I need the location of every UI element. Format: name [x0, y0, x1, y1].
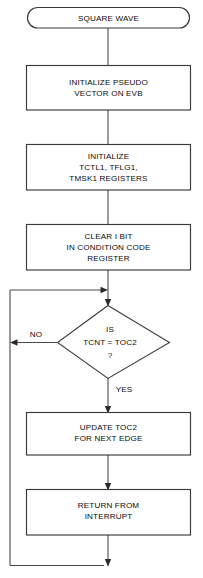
edge-label-yes: YES: [116, 385, 133, 394]
node-init-registers-label-line-2: TCTL1, TFLG1,: [79, 163, 137, 172]
node-start-label-line-1: SQUARE WAVE: [78, 14, 139, 23]
edge-label-no: NO: [30, 330, 42, 339]
node-return-from-interrupt-label-line-1: RETURN FROM: [78, 501, 140, 510]
connector-clear-i-bit-to-decision: [105, 270, 111, 307]
node-init-pseudo-vector-label-line-2: VECTOR ON EVB: [74, 89, 142, 98]
connector-decision-yes-to-update-toc2: [105, 378, 111, 414]
node-clear-i-bit-label-line-3: REGISTER: [87, 254, 130, 263]
node-clear-i-bit-label-line-1: CLEAR I BIT: [85, 232, 133, 241]
node-init-registers-label-line-1: INITIALIZE: [88, 152, 130, 161]
connector-return-to-loop-back: [105, 535, 111, 567]
flowchart-canvas: SQUARE WAVE INITIALIZE PSEUDO VECTOR ON …: [0, 0, 203, 578]
node-update-toc2: UPDATE TOC2 FOR NEXT EDGE: [27, 413, 191, 456]
node-init-registers: INITIALIZE TCTL1, TFLG1, TMSK1 REGISTERS: [27, 145, 191, 191]
connector-update-toc2-to-return: [105, 455, 111, 491]
node-return-from-interrupt-label-line-2: INTERRUPT: [85, 512, 133, 521]
node-decision-label-line-2: TCNT = TOC2: [83, 338, 137, 347]
node-init-pseudo-vector: INITIALIZE PSEUDO VECTOR ON EVB: [27, 66, 191, 111]
node-init-pseudo-vector-label-line-1: INITIALIZE PSEUDO: [69, 78, 148, 87]
connector-loop-back-into-decision: [10, 287, 108, 293]
node-return-from-interrupt: RETURN FROM INTERRUPT: [27, 490, 191, 536]
node-start-terminator: SQUARE WAVE: [28, 8, 190, 29]
node-init-registers-label-line-3: TMSK1 REGISTERS: [69, 174, 148, 183]
node-decision-tcnt-equals-toc2: IS TCNT = TOC2 ?: [58, 306, 170, 379]
node-update-toc2-label-line-1: UPDATE TOC2: [80, 423, 138, 432]
connector-decision-no-branch: [10, 339, 58, 345]
node-decision-label-line-1: IS: [106, 325, 114, 334]
node-decision-label-line-3: ?: [108, 351, 113, 360]
node-clear-i-bit-label-line-2: IN CONDITION CODE: [67, 243, 151, 252]
node-update-toc2-label-line-2: FOR NEXT EDGE: [75, 434, 143, 443]
flowchart-diagram: SQUARE WAVE INITIALIZE PSEUDO VECTOR ON …: [0, 0, 203, 578]
node-clear-i-bit: CLEAR I BIT IN CONDITION CODE REGISTER: [27, 225, 191, 271]
